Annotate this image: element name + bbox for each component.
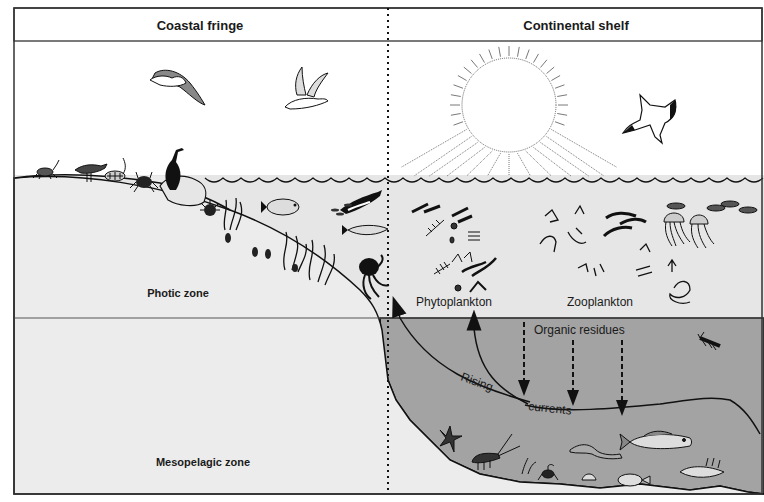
phytoplankton-label: Phytoplankton bbox=[416, 295, 492, 309]
zooplankton-label: Zooplankton bbox=[567, 295, 633, 309]
header-band bbox=[14, 8, 762, 41]
header-continental-shelf: Continental shelf bbox=[523, 18, 629, 33]
organic-residues-label: Organic residues bbox=[534, 323, 625, 337]
header-coastal-fringe: Coastal fringe bbox=[157, 18, 244, 33]
mesopelagic-zone-label: Mesopelagic zone bbox=[156, 456, 250, 468]
photic-zone-label: Photic zone bbox=[147, 287, 209, 299]
ocean-zones-diagram: Coastal fringe Continental shelf bbox=[0, 0, 764, 502]
